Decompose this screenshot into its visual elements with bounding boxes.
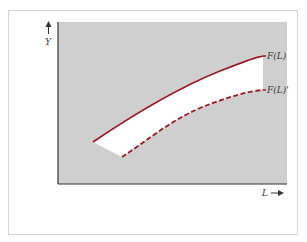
curve-f-l-prime-label: F(L)' — [266, 85, 289, 95]
y-axis-arrow-icon — [46, 21, 52, 34]
x-axis-arrow-icon — [271, 190, 284, 196]
curve-f-l-label: F(L) — [266, 51, 287, 61]
y-axis-label: Y — [45, 37, 52, 47]
x-axis-label: L — [261, 188, 268, 198]
production-function-diagram: Y L F(L) F(L)' — [0, 0, 307, 242]
